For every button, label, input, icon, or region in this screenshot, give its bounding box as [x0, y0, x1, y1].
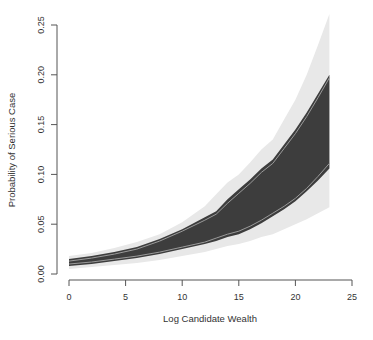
x-tick-label: 5	[123, 292, 128, 302]
x-tick-label: 10	[177, 292, 187, 302]
confidence-bands	[69, 14, 329, 269]
x-axis: 0510152025	[66, 280, 357, 302]
y-tick-label: 0.00	[36, 265, 46, 283]
y-tick-label: 0.05	[36, 215, 46, 233]
y-axis-title: Probability of Serious Case	[6, 93, 17, 208]
x-tick-label: 0	[66, 292, 71, 302]
x-tick-label: 20	[290, 292, 300, 302]
x-tick-label: 25	[347, 292, 357, 302]
y-tick-label: 0.25	[36, 16, 46, 34]
x-tick-label: 15	[234, 292, 244, 302]
y-tick-label: 0.20	[36, 66, 46, 84]
y-axis: 0.000.050.100.150.200.25	[36, 16, 57, 283]
y-tick-label: 0.10	[36, 166, 46, 184]
chart: 0.000.050.100.150.200.25 0510152025 Log …	[0, 0, 373, 340]
inner-interval-band	[69, 75, 329, 266]
y-tick-label: 0.15	[36, 116, 46, 134]
x-axis-title: Log Candidate Wealth	[163, 313, 257, 324]
